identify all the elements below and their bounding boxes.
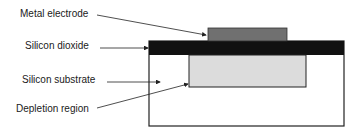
mos-diagram: Metal electrode Silicon dioxide Silicon … — [0, 0, 359, 133]
depletion-region — [189, 55, 306, 87]
label-metal-electrode: Metal electrode — [20, 8, 89, 19]
silicon-dioxide-layer — [149, 41, 344, 55]
metal-electrode — [208, 28, 287, 41]
label-silicon-dioxide: Silicon dioxide — [25, 40, 89, 51]
label-silicon-substrate: Silicon substrate — [22, 74, 96, 85]
arrow-metal-electrode — [97, 15, 206, 35]
label-depletion-region: Depletion region — [16, 103, 89, 114]
